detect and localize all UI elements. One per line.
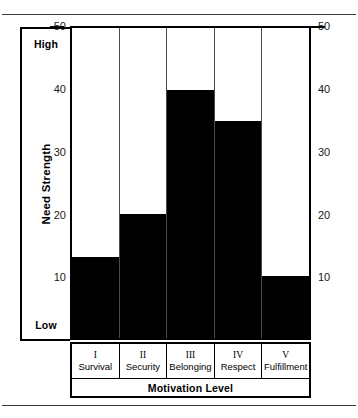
x-category-belonging: III Belonging xyxy=(167,344,215,378)
bar-belonging xyxy=(167,90,214,338)
x-axis-category-table: I Survival II Security III Belonging IV … xyxy=(70,342,311,398)
y-axis-left-ticks: 50 40 30 20 10 xyxy=(44,0,66,418)
x-category-numeral: III xyxy=(186,349,196,361)
bar-respect xyxy=(215,121,262,338)
x-axis-category-row: I Survival II Security III Belonging IV … xyxy=(72,344,309,379)
x-category-numeral: I xyxy=(94,349,97,361)
y-tick-right-50: 50 xyxy=(318,21,340,32)
y-tick-right-40: 40 xyxy=(318,84,340,95)
x-axis-title: Motivation Level xyxy=(72,379,309,396)
y-tick-left-50: 50 xyxy=(44,21,66,32)
y-tick-left-10: 10 xyxy=(44,272,66,283)
bar-survival xyxy=(72,257,119,338)
bar-series xyxy=(72,28,309,338)
bar-fulfillment xyxy=(262,276,309,338)
x-category-security: II Security xyxy=(120,344,168,378)
x-category-survival: I Survival xyxy=(72,344,120,378)
y-tick-right-20: 20 xyxy=(318,210,340,221)
x-category-name: Survival xyxy=(78,361,112,373)
y-axis-right-ticks: 50 40 30 20 10 xyxy=(318,0,346,418)
x-category-name: Fulfillment xyxy=(264,361,307,373)
bar-cell-security xyxy=(120,28,168,338)
x-category-name: Security xyxy=(126,361,160,373)
bar-security xyxy=(120,214,167,338)
y-tick-left-40: 40 xyxy=(44,84,66,95)
x-category-numeral: II xyxy=(140,349,146,361)
chart-plot-area xyxy=(70,26,311,340)
bar-cell-survival xyxy=(72,28,120,338)
y-tick-left-30: 30 xyxy=(44,147,66,158)
x-category-name: Belonging xyxy=(169,361,211,373)
x-category-respect: IV Respect xyxy=(215,344,263,378)
y-tick-right-30: 30 xyxy=(318,147,340,158)
x-category-fulfillment: V Fulfillment xyxy=(262,344,309,378)
y-tick-right-10: 10 xyxy=(318,272,340,283)
x-category-name: Respect xyxy=(221,361,256,373)
bar-cell-belonging xyxy=(167,28,215,338)
x-category-numeral: V xyxy=(282,349,289,361)
bar-cell-fulfillment xyxy=(262,28,309,338)
y-tick-left-20: 20 xyxy=(44,210,66,221)
x-category-numeral: IV xyxy=(233,349,243,361)
bar-cell-respect xyxy=(215,28,263,338)
